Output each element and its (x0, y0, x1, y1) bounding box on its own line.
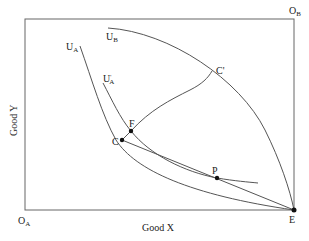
ub-indifference-curve (108, 28, 294, 210)
y-axis-label: Good Y (8, 104, 19, 136)
origin-a-label: OA (18, 215, 30, 228)
point-e-label: E (289, 214, 295, 225)
ub-label: UB (106, 31, 118, 44)
point-f-label: F (129, 118, 135, 129)
point-c (120, 138, 124, 142)
x-axis-label: Good X (142, 222, 175, 233)
contract-curve (122, 71, 212, 140)
ua-prime-indifference-curve (103, 83, 258, 183)
ua-prime-label: U'A (103, 73, 114, 86)
point-c-prime-label: C' (216, 65, 225, 76)
ua-label: UA (66, 41, 78, 54)
point-c-label: C (112, 136, 119, 147)
point-f (129, 129, 133, 133)
point-p-label: P (212, 165, 218, 176)
budget-line (122, 140, 294, 210)
point-p (215, 176, 219, 180)
point-e (292, 208, 297, 213)
edgeworth-box-diagram: OA OB Good X Good Y UA U'A UB C F C' P E (0, 0, 309, 241)
origin-b-label: OB (289, 5, 301, 18)
ua-indifference-curve (80, 46, 294, 210)
